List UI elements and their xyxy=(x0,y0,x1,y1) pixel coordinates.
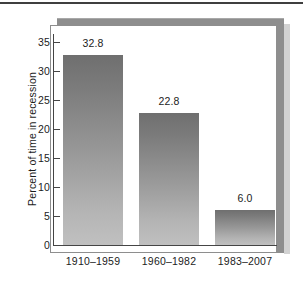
y-axis-title: Percent of time in recession xyxy=(26,44,38,234)
y-tick-label-15: 15 xyxy=(10,153,50,163)
y-tick-label-35: 35 xyxy=(10,37,50,47)
x-category-label-2: 1960–1982 xyxy=(124,256,214,267)
plot-frame-shadow-outer xyxy=(284,24,290,254)
plot-frame-shadow-highlight xyxy=(57,18,284,19)
y-tick-label-25: 25 xyxy=(10,95,50,105)
y-tick-label-30: 30 xyxy=(10,66,50,76)
y-tick-label-5: 5 xyxy=(10,211,50,221)
y-tick-label-10: 10 xyxy=(10,182,50,192)
x-category-label-3: 1983–2007 xyxy=(200,256,290,267)
y-tick-label-20: 20 xyxy=(10,124,50,134)
x-category-label-1: 1910–1959 xyxy=(48,256,138,267)
plot-box xyxy=(50,25,277,253)
y-tick-label-0: 0 xyxy=(10,240,50,250)
page-top-rule xyxy=(0,2,303,4)
